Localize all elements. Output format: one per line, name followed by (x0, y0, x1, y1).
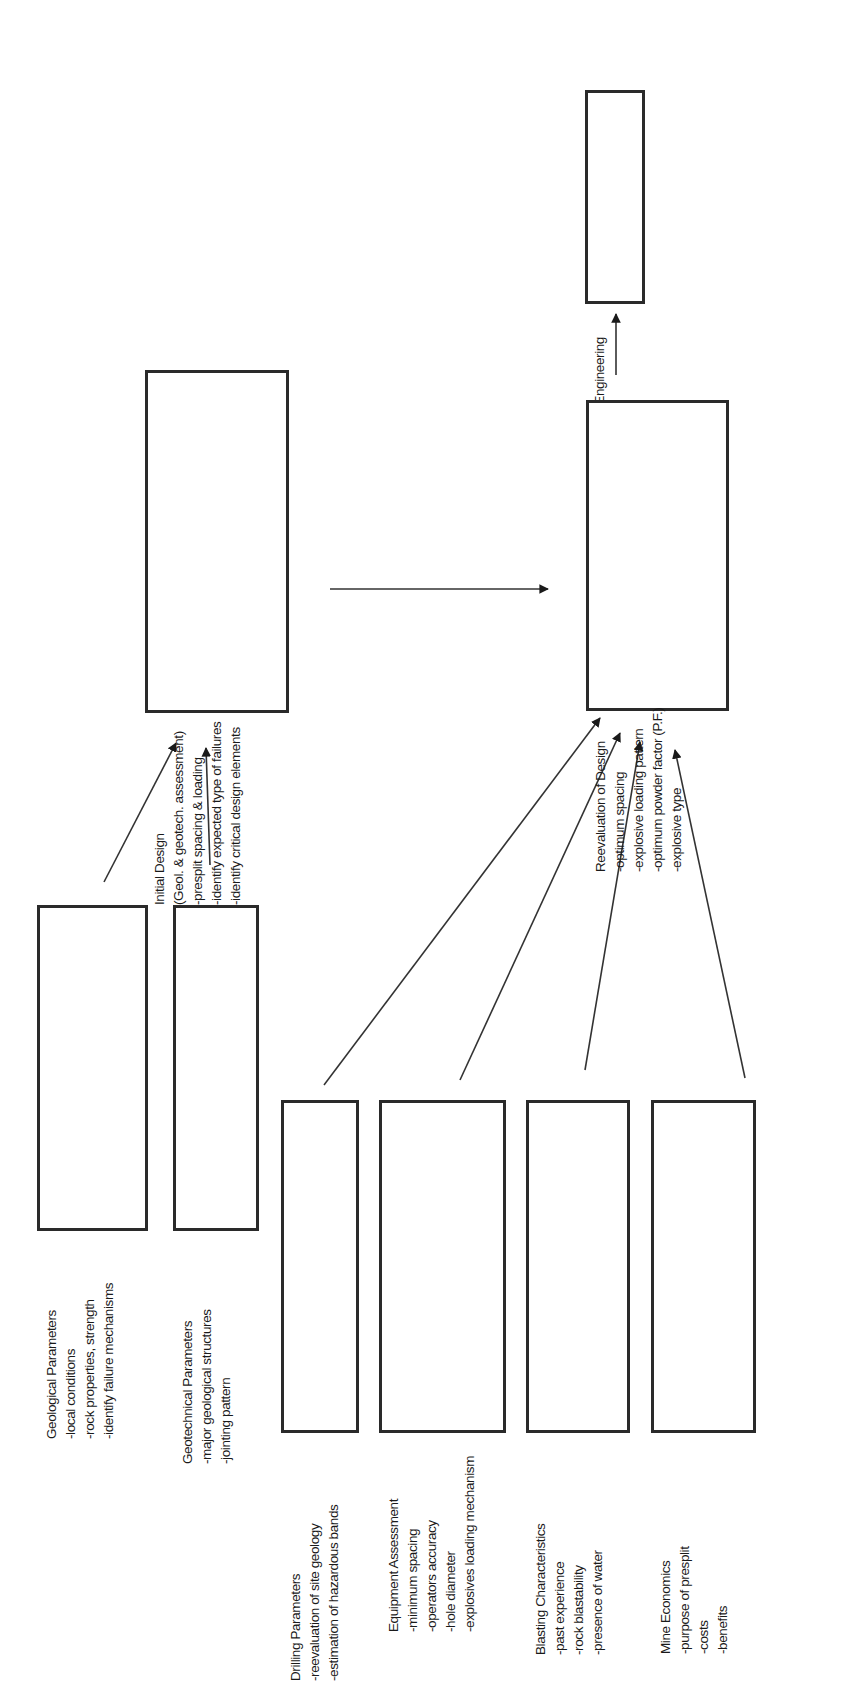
node-item: -past experience (550, 1330, 569, 1655)
node-item: -minimum spacing (403, 1307, 422, 1632)
node-item: -explosive loading pattern (629, 569, 648, 872)
node-item: -optimum powder factor (P.F.) (648, 569, 667, 872)
node-geotechnical-parameters: Geotechnical Parameters -major geologica… (173, 905, 259, 1231)
node-mine-economics: Mine Economics -purpose of presplit -cos… (651, 1100, 756, 1433)
node-equipment-assessment: Equipment Assessment -minimum spacing -o… (379, 1100, 506, 1433)
node-drilling-parameters: Drilling Parameters -reevaluation of sit… (281, 1100, 359, 1433)
node-title: Reevaluation of Design (591, 569, 610, 872)
node-item: -purpose of presplit (675, 1329, 694, 1654)
node-title: Equipment Assessment (384, 1307, 403, 1632)
node-item: -major geological structures (197, 1146, 216, 1464)
node-item: -rock properties, strength (80, 1121, 99, 1439)
node-item: (Geol. & geotech. assessment) (169, 570, 188, 905)
node-item: -jointing pattern (216, 1146, 235, 1464)
node-title: Blasting Characteristics (531, 1330, 550, 1655)
node-provide-engineering-solution: Provide Engineering Solution (585, 90, 645, 304)
node-item: -explosives loading mechanism (460, 1307, 479, 1632)
node-item: -estimation of hazardous bands (324, 1356, 343, 1681)
node-item: -operators accuracy (422, 1307, 441, 1632)
node-title: Geological Parameters (42, 1121, 61, 1439)
node-title: Initial Design (150, 570, 169, 905)
node-item: -presplit spacing & loading (188, 570, 207, 905)
node-item: -identify expected type of failures (207, 570, 226, 905)
node-item: -rock blastability (569, 1330, 588, 1655)
node-geological-parameters: Geological Parameters -local conditions … (37, 905, 148, 1231)
node-item: -reevaluation of site geology (305, 1356, 324, 1681)
node-reevaluation-of-design: Reevaluation of Design -optimum spacing … (586, 400, 729, 711)
node-title: Mine Economics (656, 1329, 675, 1654)
node-title: Drilling Parameters (286, 1356, 305, 1681)
node-item: -benefits (713, 1329, 732, 1654)
node-item: -optimum spacing (610, 569, 629, 872)
node-item: -identify failure mechanisms (99, 1121, 118, 1439)
node-title: Geotechnical Parameters (178, 1146, 197, 1464)
node-initial-design: Initial Design (Geol. & geotech. assessm… (145, 370, 289, 713)
node-item: -costs (694, 1329, 713, 1654)
node-item: -explosive type (667, 569, 686, 872)
node-item: -presence of water (588, 1330, 607, 1655)
node-item: -local conditions (61, 1121, 80, 1439)
node-blasting-characteristics: Blasting Characteristics -past experienc… (526, 1100, 630, 1433)
arrow-drilling-to-reevaluation (324, 718, 600, 1085)
node-item: -hole diameter (441, 1307, 460, 1632)
node-item: -identify critical design elements (226, 570, 245, 905)
